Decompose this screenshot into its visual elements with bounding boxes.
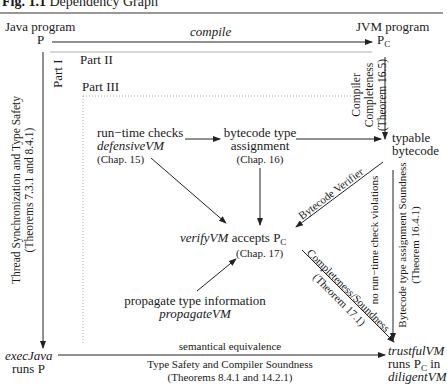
runs-p-label: runs P [12,362,45,376]
figure-title: Fig. 1.1 Dependency Graph [2,0,158,10]
bytecode-soundness-label: Bytecode type assignment Soundness (Theo… [396,160,422,330]
runtime-checks-chap: (Chap. 15) [97,153,144,165]
figure-title-text: Dependency Graph [49,0,157,9]
part-ii-label: Part II [80,53,113,67]
figure-label: Fig. 1.1 [2,0,46,9]
part-iii-label: Part III [82,80,119,94]
bytecode-label: bytecode [392,144,439,158]
no-runtime-violations-label: no run−time check violations [368,170,381,310]
semantical-equivalence-label: semantical equivalence [100,340,360,352]
jvm-program-label: JVM program [356,20,429,34]
compiler-completeness-label: Compiler Completeness (Theorem 16.5) [350,55,389,135]
verify-vm-chap: (Chap. 17) [236,247,283,259]
part-i-label: Part I [51,59,64,88]
bytecode-type-chap: (Chap. 16) [222,153,298,165]
defensive-vm-label: defensiveVM [97,139,164,153]
diligent-vm-label: diligentVM [388,370,447,384]
java-program-p: P [37,33,44,47]
type-safety-label: Type Safety and Compiler Soundness [90,358,370,370]
type-safety-theorems: (Theorems 8.4.1 and 14.2.1) [90,371,370,383]
thread-sync-label: Thread Synchronization and Type Safety (… [10,60,36,320]
compile-label: compile [190,25,231,39]
jvm-program-pc: PC [377,33,390,51]
assignment-label: assignment [222,139,298,153]
propagate-vm-label: propagateVM [120,307,270,321]
